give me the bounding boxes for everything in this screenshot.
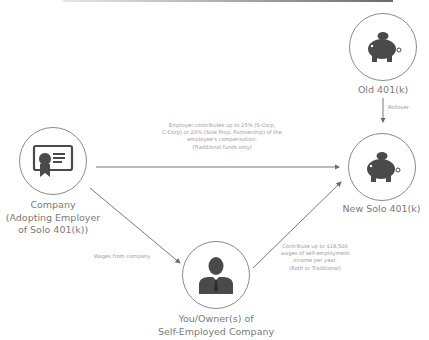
company-label: Company (Adopting Employer of Solo 401(k… bbox=[0, 199, 106, 237]
certificate-icon bbox=[31, 143, 75, 179]
company-node bbox=[19, 127, 87, 195]
wages-label: Wages from company bbox=[82, 253, 162, 260]
new-solo-401k-label: New Solo 401(k) bbox=[334, 203, 429, 216]
employee-contribution-label: Contribute up to $18,500 wages of self-e… bbox=[265, 243, 365, 272]
piggy-bank-icon bbox=[363, 30, 403, 64]
piggy-bank-icon bbox=[362, 150, 402, 184]
new-solo-401k-node bbox=[348, 133, 416, 201]
old-401k-node bbox=[349, 13, 417, 81]
rollover-label: Rollover bbox=[388, 104, 409, 111]
employer-contribution-label: Employer contributes up to 25% (S-Corp, … bbox=[134, 122, 310, 151]
owner-label: You/Owner(s) of Self-Employed Company bbox=[150, 313, 282, 338]
owner-node bbox=[182, 241, 250, 309]
person-icon bbox=[196, 256, 236, 294]
old-401k-label: Old 401(k) bbox=[340, 84, 426, 97]
